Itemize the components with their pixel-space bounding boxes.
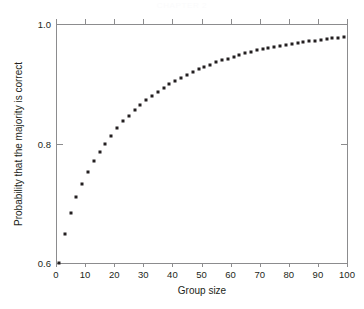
data-point	[308, 40, 311, 43]
data-point	[226, 57, 229, 60]
data-point	[220, 59, 223, 62]
data-point	[273, 45, 276, 48]
x-tick-bottom	[143, 263, 144, 267]
x-tick-label: 90	[313, 269, 324, 280]
x-tick-bottom	[231, 263, 232, 267]
y-tick-right	[341, 24, 347, 25]
data-point	[180, 76, 183, 79]
y-axis-title: Probability that the majority is correct	[12, 24, 26, 264]
data-point	[343, 35, 346, 38]
data-point	[133, 109, 136, 112]
y-tick-right	[341, 144, 347, 145]
data-point	[98, 150, 101, 153]
x-tick-top	[202, 19, 203, 25]
x-axis-title: Group size	[56, 285, 348, 296]
data-point	[238, 54, 241, 57]
x-tick-bottom	[85, 263, 86, 267]
x-tick-bottom	[172, 263, 173, 267]
data-point	[104, 142, 107, 145]
x-tick-label: 50	[196, 269, 207, 280]
faint-header-text: CHAPTER 2	[0, 0, 364, 11]
x-tick-label: 30	[138, 269, 149, 280]
x-tick-top	[143, 19, 144, 25]
data-point	[116, 126, 119, 129]
data-point	[279, 44, 282, 47]
plot-area: 0102030405060708090100 0.60.81.0	[56, 24, 348, 264]
y-tick-label: 0.6	[38, 258, 51, 269]
data-point	[151, 94, 154, 97]
y-tick	[57, 144, 63, 145]
data-point	[337, 36, 340, 39]
data-point	[215, 61, 218, 64]
data-point	[191, 70, 194, 73]
data-point	[302, 40, 305, 43]
data-point	[313, 39, 316, 42]
y-tick-label: 0.8	[38, 138, 51, 149]
data-point	[63, 233, 66, 236]
data-point	[168, 83, 171, 86]
data-point	[203, 66, 206, 69]
y-tick-right	[341, 263, 347, 264]
x-tick-label: 0	[53, 269, 58, 280]
data-point	[261, 48, 264, 51]
x-tick-bottom	[260, 263, 261, 267]
right-spine	[347, 24, 348, 264]
x-tick-top	[172, 19, 173, 25]
x-tick-label: 10	[80, 269, 91, 280]
data-point	[284, 43, 287, 46]
data-point	[249, 51, 252, 54]
data-point	[69, 212, 72, 215]
x-tick-top	[289, 19, 290, 25]
x-tick-bottom	[347, 263, 348, 267]
data-point	[232, 55, 235, 58]
x-tick-bottom	[289, 263, 290, 267]
data-point	[197, 68, 200, 71]
x-tick-label: 40	[167, 269, 178, 280]
data-point	[174, 79, 177, 82]
data-point	[255, 49, 258, 52]
data-point	[156, 90, 159, 93]
data-point	[185, 73, 188, 76]
data-point	[110, 134, 113, 137]
y-tick-label: 1.0	[38, 19, 51, 30]
x-tick-top	[347, 19, 348, 25]
x-tick-bottom	[202, 263, 203, 267]
data-point	[75, 196, 78, 199]
x-tick-bottom	[114, 263, 115, 267]
data-point	[145, 99, 148, 102]
data-point	[121, 120, 124, 123]
x-tick-label: 100	[339, 269, 355, 280]
data-point	[81, 182, 84, 185]
data-point	[319, 38, 322, 41]
data-point	[325, 37, 328, 40]
x-tick-top	[260, 19, 261, 25]
data-point	[162, 86, 165, 89]
chart-figure: CHAPTER 2 0102030405060708090100 0.60.81…	[0, 0, 364, 309]
x-tick-label: 70	[254, 269, 265, 280]
data-point	[267, 46, 270, 49]
x-tick-label: 60	[225, 269, 236, 280]
data-point	[331, 37, 334, 40]
data-point	[209, 63, 212, 66]
y-tick	[57, 24, 63, 25]
x-tick-top	[231, 19, 232, 25]
x-tick-label: 20	[109, 269, 120, 280]
data-point	[290, 42, 293, 45]
x-tick-top	[85, 19, 86, 25]
data-point	[92, 160, 95, 163]
x-tick-bottom	[318, 263, 319, 267]
x-tick-label: 80	[284, 269, 295, 280]
data-point	[57, 262, 60, 265]
data-point	[127, 115, 130, 118]
data-point	[87, 170, 90, 173]
x-tick-top	[318, 19, 319, 25]
data-point	[244, 52, 247, 55]
data-point	[139, 104, 142, 107]
x-tick-top	[114, 19, 115, 25]
data-point	[296, 42, 299, 45]
